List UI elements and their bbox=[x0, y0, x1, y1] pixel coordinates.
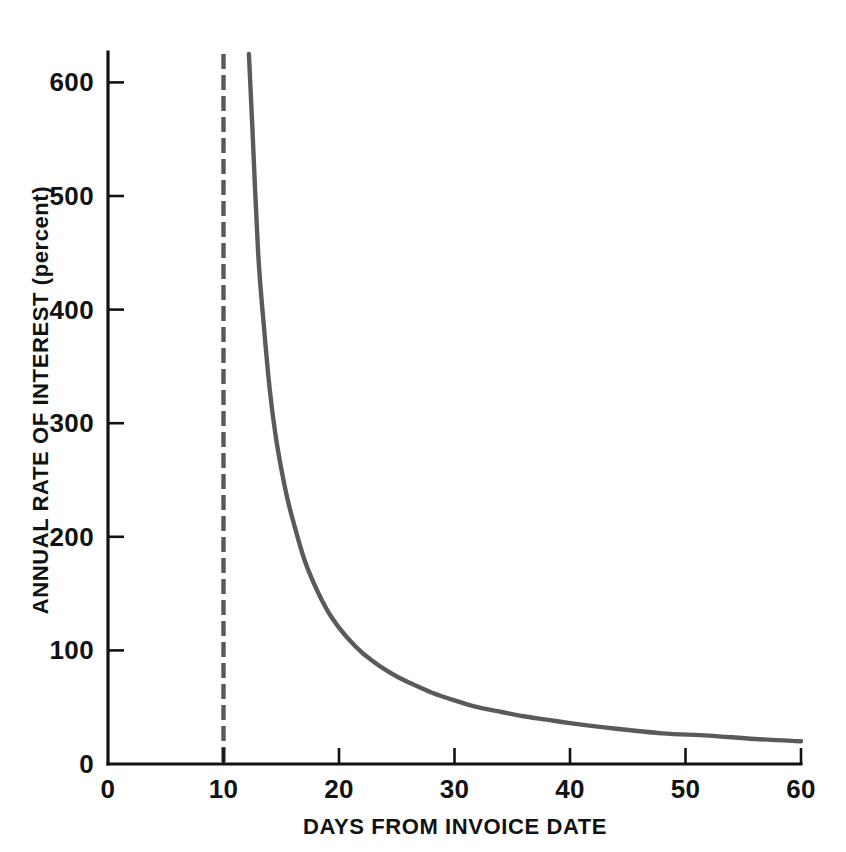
y-axis-title: ANNUAL RATE OF INTEREST (percent) bbox=[28, 186, 53, 614]
x-axis-title: DAYS FROM INVOICE DATE bbox=[303, 814, 607, 839]
x-tick-label: 50 bbox=[671, 774, 701, 804]
interest-rate-line-chart: 0100200300400500600 0102030405060 DAYS F… bbox=[0, 0, 846, 852]
y-axis: 0100200300400500600 bbox=[49, 52, 124, 779]
y-tick-group: 0100200300400500600 bbox=[49, 67, 124, 779]
y-tick-label: 200 bbox=[49, 522, 94, 552]
y-tick-label: 300 bbox=[49, 408, 94, 438]
y-tick-label: 400 bbox=[49, 295, 94, 325]
interest-rate-curve bbox=[249, 54, 801, 741]
x-tick-label: 60 bbox=[786, 774, 816, 804]
x-tick-label: 30 bbox=[440, 774, 470, 804]
plot-area bbox=[224, 54, 802, 764]
y-tick-label: 100 bbox=[49, 635, 94, 665]
x-tick-label: 10 bbox=[209, 774, 239, 804]
x-axis: 0102030405060 bbox=[101, 748, 816, 804]
x-tick-group: 0102030405060 bbox=[101, 748, 816, 804]
x-tick-label: 20 bbox=[324, 774, 354, 804]
y-tick-label: 600 bbox=[49, 67, 94, 97]
chart-figure: 0100200300400500600 0102030405060 DAYS F… bbox=[0, 0, 846, 852]
y-tick-label: 500 bbox=[49, 181, 94, 211]
x-tick-label: 40 bbox=[555, 774, 585, 804]
y-tick-label: 0 bbox=[79, 749, 94, 779]
x-tick-label: 0 bbox=[101, 774, 116, 804]
